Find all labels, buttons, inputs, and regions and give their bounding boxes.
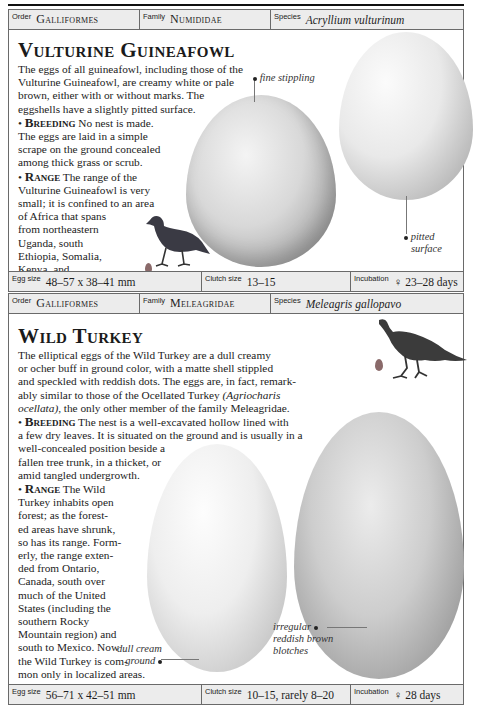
species-cell: Species Meleagris gallopavo bbox=[271, 294, 463, 313]
top-rule bbox=[8, 4, 464, 6]
egg-scale-icon bbox=[375, 359, 383, 371]
species-label: Species bbox=[274, 12, 301, 21]
taxonomy-bar: Order Galliformes Family Meleagridae Spe… bbox=[9, 294, 463, 314]
range-heading: Range bbox=[25, 481, 60, 496]
turkey-illustration bbox=[371, 316, 467, 382]
species-value: Acryllium vulturinum bbox=[306, 14, 405, 26]
order-label: Order bbox=[12, 12, 31, 21]
egg-stats-bar: Egg size 56–71 x 42–51 mm Clutch size 10… bbox=[9, 684, 463, 704]
order-cell: Order Galliformes bbox=[9, 294, 140, 313]
family-value: Numididae bbox=[170, 12, 222, 27]
species-title: Vulturine Guineafowl bbox=[18, 38, 235, 63]
incubation-value: ♀ 28 days bbox=[394, 689, 441, 701]
egg-size-cell: Egg size 56–71 x 42–51 mm bbox=[9, 685, 202, 704]
egg-size-cell: Egg size 48–57 x 38–41 mm bbox=[9, 272, 202, 291]
taxonomy-bar: Order Galliformes Family Numididae Speci… bbox=[9, 10, 463, 30]
incubation-cell: Incubation ♀ 23–28 days bbox=[351, 272, 463, 291]
pointer-dot-icon bbox=[158, 660, 162, 664]
egg-size-value: 56–71 x 42–51 mm bbox=[46, 689, 136, 701]
pointer-dot-icon bbox=[404, 236, 408, 240]
range-heading: Range bbox=[25, 169, 60, 184]
leader-line bbox=[161, 659, 199, 660]
annotation-dull-cream-ground: dull cream ground bbox=[117, 643, 162, 667]
egg-size-label: Egg size bbox=[12, 274, 41, 283]
intro-line: Vulturine Guineafowl, are creamy white o… bbox=[18, 76, 243, 89]
egg-size-value: 48–57 x 38–41 mm bbox=[46, 276, 136, 288]
annotation-reddish-blotches: irregular reddish brown blotches bbox=[273, 621, 333, 657]
entry-wild-turkey: Order Galliformes Family Meleagridae Spe… bbox=[8, 293, 464, 705]
breeding-heading: Breeding bbox=[25, 414, 76, 429]
order-value: Galliformes bbox=[36, 12, 98, 27]
species-label: Species bbox=[274, 296, 301, 305]
annotation-pitted-surface: pitted surface bbox=[404, 231, 442, 255]
family-value: Meleagridae bbox=[170, 296, 235, 311]
incubation-label: Incubation bbox=[354, 274, 389, 283]
species-title: Wild Turkey bbox=[18, 324, 143, 349]
leader-line bbox=[406, 196, 407, 234]
annotation-fine-stippling: fine stippling bbox=[253, 72, 315, 84]
incubation-cell: Incubation ♀ 28 days bbox=[351, 685, 463, 704]
egg-image-pale bbox=[339, 32, 473, 200]
family-label: Family bbox=[143, 12, 165, 21]
order-cell: Order Galliformes bbox=[9, 10, 140, 29]
clutch-size-value: 13–15 bbox=[247, 276, 276, 288]
guineafowl-illustration bbox=[140, 208, 212, 270]
incubation-label: Incubation bbox=[354, 687, 389, 696]
clutch-size-cell: Clutch size 10–15, rarely 8–20 bbox=[202, 685, 351, 704]
order-label: Order bbox=[12, 296, 31, 305]
breeding-heading: Breeding bbox=[25, 115, 76, 130]
clutch-size-cell: Clutch size 13–15 bbox=[202, 272, 351, 291]
clutch-size-value: 10–15, rarely 8–20 bbox=[247, 689, 334, 701]
entry-vulturine-guineafowl: Order Galliformes Family Numididae Speci… bbox=[8, 9, 464, 292]
egg-size-label: Egg size bbox=[12, 687, 41, 696]
order-value: Galliformes bbox=[36, 296, 98, 311]
species-cell: Species Acryllium vulturinum bbox=[271, 10, 463, 29]
intro-line: brown, either with or without marks. The bbox=[18, 89, 243, 102]
egg-stats-bar: Egg size 48–57 x 38–41 mm Clutch size 13… bbox=[9, 271, 463, 291]
species-value: Meleagris gallopavo bbox=[306, 298, 402, 310]
breeding-paragraph: • Breeding The nest is a well-excavated … bbox=[18, 415, 303, 429]
family-cell: Family Numididae bbox=[140, 10, 271, 29]
family-cell: Family Meleagridae bbox=[140, 294, 271, 313]
clutch-size-label: Clutch size bbox=[205, 274, 242, 283]
pointer-dot-icon bbox=[314, 626, 318, 630]
intro-line: The eggs of all guineafowl, including th… bbox=[18, 63, 243, 76]
family-label: Family bbox=[143, 296, 165, 305]
incubation-value: ♀ 23–28 days bbox=[394, 276, 458, 288]
pointer-dot-icon bbox=[253, 77, 257, 81]
clutch-size-label: Clutch size bbox=[205, 687, 242, 696]
